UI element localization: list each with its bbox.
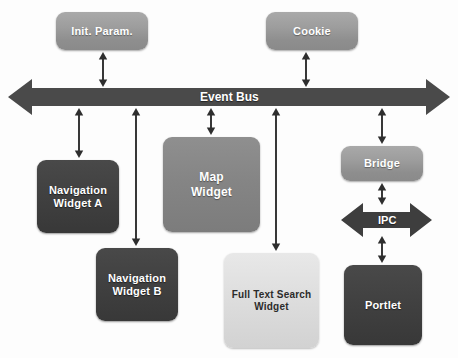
node-map-widget[interactable]: Map Widget	[163, 137, 260, 232]
node-label: Full Text Search Widget	[232, 289, 312, 313]
node-label: Navigation Widget A	[49, 184, 107, 210]
ipc-label: IPC	[378, 214, 396, 226]
event-bus-label: Event Bus	[200, 90, 259, 104]
cookie-to-bus	[302, 52, 310, 87]
bridge-to-ipc	[378, 183, 386, 205]
node-cookie[interactable]: Cookie	[266, 12, 358, 50]
init-param-to-bus	[99, 52, 107, 87]
bus-to-full-text-search	[272, 108, 280, 251]
diagram-canvas: Init. Param.CookieNavigation Widget ANav…	[0, 0, 458, 358]
node-label: Navigation Widget B	[108, 272, 166, 298]
bus-to-navigation-a	[75, 108, 83, 158]
node-navigation-b[interactable]: Navigation Widget B	[96, 248, 178, 321]
node-label: Init. Param.	[71, 25, 133, 38]
node-full-text-search[interactable]: Full Text Search Widget	[224, 253, 319, 348]
bus-to-navigation-b	[132, 108, 140, 246]
node-label: Map Widget	[191, 170, 232, 198]
node-portlet[interactable]: Portlet	[344, 265, 422, 345]
node-init-param[interactable]: Init. Param.	[56, 12, 148, 50]
node-label: Bridge	[364, 157, 400, 170]
node-label: Portlet	[365, 299, 401, 312]
node-navigation-a[interactable]: Navigation Widget A	[37, 160, 119, 233]
node-label: Cookie	[293, 25, 331, 38]
node-bridge[interactable]: Bridge	[341, 146, 423, 181]
ipc-to-portlet	[378, 236, 386, 263]
bus-to-map-widget	[207, 108, 215, 135]
bus-to-bridge	[378, 108, 386, 144]
